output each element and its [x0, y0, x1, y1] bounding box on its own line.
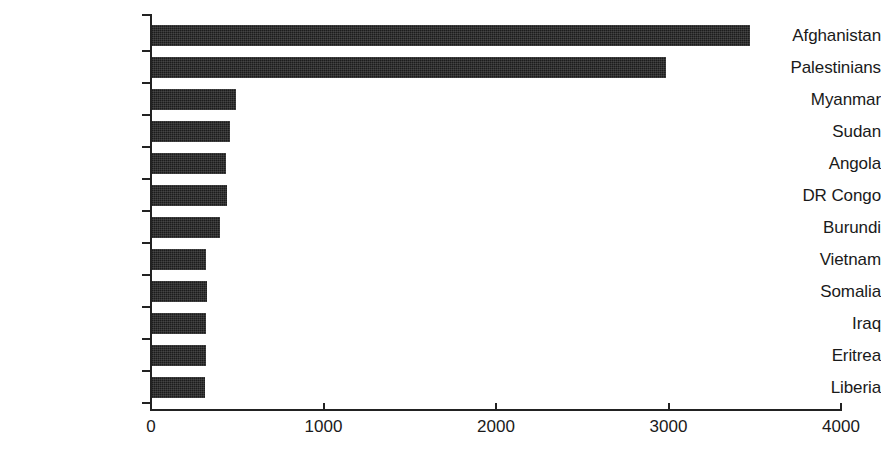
bar-chart: Afghanistan Palestinians Myanmar Sudan A…: [0, 0, 881, 464]
bar: [151, 153, 226, 174]
x-axis-tick-label: 3000: [650, 418, 688, 436]
category-label: Afghanistan: [741, 27, 881, 44]
category-label: Burundi: [741, 219, 881, 236]
x-axis-tick: [495, 403, 497, 411]
category-label: Eritrea: [741, 347, 881, 364]
bar: [151, 25, 750, 46]
bar: [151, 313, 206, 334]
x-axis-tick-label: 1000: [305, 418, 343, 436]
bar: [151, 121, 230, 142]
bar: [151, 57, 666, 78]
bar: [151, 281, 207, 302]
category-label: Angola: [741, 155, 881, 172]
x-axis-tick: [150, 403, 152, 411]
category-label: Vietnam: [741, 251, 881, 268]
bar: [151, 217, 220, 238]
category-label: Myanmar: [741, 91, 881, 108]
bar: [151, 249, 206, 270]
bar: [151, 345, 206, 366]
x-axis-tick-label: 0: [146, 418, 155, 436]
x-axis-tick-label: 4000: [822, 418, 860, 436]
category-label: Palestinians: [741, 59, 881, 76]
y-axis-line: [150, 14, 152, 411]
category-label: Somalia: [741, 283, 881, 300]
x-axis-tick: [668, 403, 670, 411]
bar: [151, 89, 236, 110]
bar: [151, 377, 205, 398]
x-axis-tick-label: 2000: [477, 418, 515, 436]
category-label: Liberia: [741, 379, 881, 396]
category-label: Iraq: [741, 315, 881, 332]
x-axis-tick: [840, 403, 842, 411]
x-axis-tick: [323, 403, 325, 411]
category-label: DR Congo: [741, 187, 881, 204]
bar: [151, 185, 227, 206]
category-label: Sudan: [741, 123, 881, 140]
plot-area: Afghanistan Palestinians Myanmar Sudan A…: [0, 0, 881, 464]
